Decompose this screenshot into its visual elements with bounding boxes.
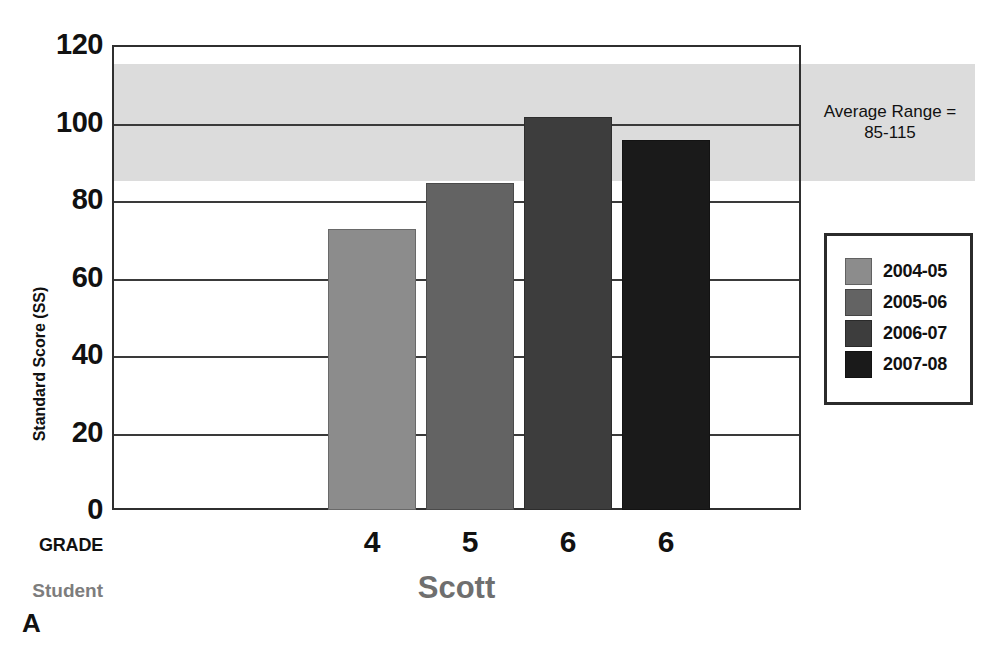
bars-layer (114, 47, 799, 510)
y-axis-tick-label: 60 (72, 263, 103, 292)
legend-item: 2004-05 (845, 256, 947, 287)
legend-label: 2007-08 (883, 354, 947, 375)
grade-value: 6 (641, 527, 691, 557)
chart-figure: 120100806040200 Standard Score (SS) Aver… (0, 0, 999, 647)
y-axis-tick-label: 80 (72, 185, 103, 214)
y-axis-tick-label: 20 (72, 418, 103, 447)
student-name-label: Scott (114, 572, 799, 603)
panel-label: A (22, 610, 41, 636)
y-axis-tick-label: 40 (72, 340, 103, 369)
y-axis-tick-label: 120 (56, 30, 103, 59)
legend-label: 2006-07 (883, 323, 947, 344)
y-axis-tick-label: 0 (87, 495, 103, 524)
legend-swatch (845, 320, 872, 347)
legend-label: 2004-05 (883, 261, 947, 282)
bar (328, 229, 416, 510)
bar (426, 183, 514, 510)
grade-axis-values: 4566 (114, 527, 799, 567)
legend-list: 2004-052005-062006-072007-08 (845, 256, 947, 380)
legend-swatch (845, 351, 872, 378)
bar (524, 117, 612, 510)
legend-label: 2005-06 (883, 292, 947, 313)
bar (622, 140, 710, 510)
legend-swatch (845, 289, 872, 316)
legend-swatch (845, 258, 872, 285)
average-range-annotation: Average Range = 85-115 (813, 101, 967, 144)
y-axis-tick-label: 100 (56, 108, 103, 137)
legend-item: 2005-06 (845, 287, 947, 318)
legend-item: 2007-08 (845, 349, 947, 380)
legend: 2004-052005-062006-072007-08 (824, 233, 973, 405)
grade-row-label: GRADE (0, 536, 103, 554)
grade-value: 5 (445, 527, 495, 557)
grade-value: 4 (347, 527, 397, 557)
legend-item: 2006-07 (845, 318, 947, 349)
grade-value: 6 (543, 527, 593, 557)
student-row-label: Student (0, 581, 103, 600)
y-axis-title: Standard Score (SS) (31, 264, 49, 464)
